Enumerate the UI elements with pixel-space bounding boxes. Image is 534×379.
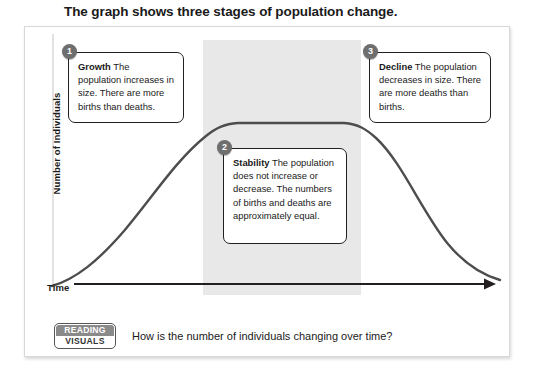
graph-figure: Number of Individuals Time Growth The po… <box>24 26 510 357</box>
callout-stability: Stability The population does not increa… <box>223 148 347 244</box>
reading-visuals-badge-line1: READING <box>56 325 114 336</box>
reading-visuals-badge: READING VISUALS <box>54 323 116 349</box>
callout-badge-3: 3 <box>363 44 378 59</box>
page-title: The graph shows three stages of populati… <box>64 2 504 22</box>
x-axis-arrowhead <box>484 279 496 290</box>
callout-growth: Growth The population increases in size.… <box>68 52 184 123</box>
y-axis-label: Number of Individuals <box>51 74 62 214</box>
reading-visuals-footer: READING VISUALS How is the number of ind… <box>54 323 392 349</box>
callout-decline-term: Decline <box>379 61 412 72</box>
reading-visuals-badge-line2: VISUALS <box>56 336 114 347</box>
callout-stability-term: Stability <box>233 157 269 168</box>
callout-decline: Decline The population decreases in size… <box>369 52 491 123</box>
callout-growth-term: Growth <box>78 61 111 72</box>
callout-badge-1: 1 <box>62 44 77 59</box>
figure-page: The graph shows three stages of populati… <box>0 0 534 379</box>
callout-badge-2: 2 <box>217 140 232 155</box>
reading-visuals-question: How is the number of individuals changin… <box>132 330 392 342</box>
x-axis-label: Time <box>47 282 69 293</box>
